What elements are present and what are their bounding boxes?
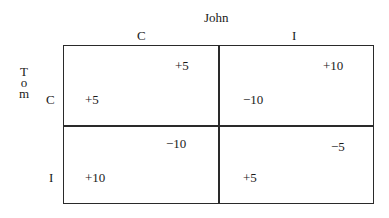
payoff-ic-tom: +10 bbox=[85, 171, 105, 184]
column-strategy-c: C bbox=[137, 29, 146, 42]
payoff-ci-john: +10 bbox=[323, 59, 343, 72]
payoff-cc-tom: +5 bbox=[85, 93, 99, 106]
row-strategy-c: C bbox=[46, 93, 55, 106]
matrix-divider-horizontal bbox=[64, 125, 373, 127]
payoff-ic-john: −10 bbox=[166, 137, 186, 150]
payoff-ii-john: −5 bbox=[331, 140, 345, 153]
payoff-ii-tom: +5 bbox=[243, 171, 257, 184]
payoff-cc-john: +5 bbox=[175, 59, 189, 72]
column-player-label: John bbox=[204, 11, 229, 24]
row-player-label: T o m bbox=[18, 66, 30, 99]
row-strategy-i: I bbox=[49, 171, 53, 184]
payoff-ci-tom: −10 bbox=[243, 93, 263, 106]
row-player-letter: m bbox=[18, 88, 30, 99]
column-strategy-i: I bbox=[292, 29, 296, 42]
